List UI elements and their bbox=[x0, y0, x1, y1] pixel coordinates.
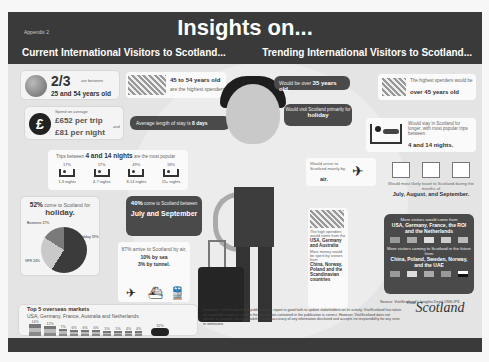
spenders-card: 45 to 54 years old are the highest spend… bbox=[126, 72, 226, 98]
market-bar: 4% bbox=[135, 327, 142, 336]
market-bar: 6% bbox=[92, 326, 100, 336]
flag-icon bbox=[424, 237, 434, 243]
trend-months: Would most likely travel to Scotland dur… bbox=[388, 162, 474, 206]
page-title: Insights on... bbox=[8, 15, 482, 41]
trend-hs-countries: USA, Germany and Australia bbox=[310, 238, 346, 248]
trend-months-highlight: July, August, and September. bbox=[388, 191, 474, 197]
trip-bucket: 49%8-14 nights bbox=[121, 162, 151, 184]
market-bar: 7% bbox=[59, 325, 67, 336]
flag-icon bbox=[103, 331, 111, 336]
trend-age-card: Would be over 35 years old. bbox=[274, 76, 350, 90]
plane-icon: ✈ bbox=[352, 163, 364, 179]
markets-flag-bars: 14% 12% 7% 6% 6% 6% 5% 5% 4% 4% 32% bbox=[29, 320, 169, 336]
pie-label-holiday: Holiday 59% bbox=[79, 235, 99, 239]
flag-icon bbox=[114, 331, 122, 336]
train-icon: 🚆 bbox=[170, 284, 185, 302]
spend-pre: Spend on average bbox=[55, 109, 88, 114]
flag-icon bbox=[92, 330, 100, 336]
flag-icon bbox=[458, 237, 468, 243]
calendar-icon bbox=[452, 162, 470, 178]
flag-icon bbox=[441, 237, 451, 243]
trend-purpose-highlight: holiday bbox=[284, 112, 352, 118]
trip-pct: 17% bbox=[63, 162, 71, 167]
market-bar: 12% bbox=[44, 322, 56, 336]
bed-icon bbox=[370, 124, 402, 144]
origin-flags-row bbox=[387, 237, 471, 243]
bed-icon bbox=[163, 169, 179, 177]
spend-and: and bbox=[113, 124, 120, 129]
age-card: 2/3 are between 25 and 54 years old bbox=[20, 70, 120, 100]
trip-pct: 18% bbox=[167, 162, 175, 167]
trip-bucket: 17%4-7 nights bbox=[87, 162, 117, 184]
trend-hs-text: The high spenders would come from the bbox=[310, 230, 346, 238]
trend-months-text: Would most likely travel to Scotland dur… bbox=[388, 181, 474, 191]
transport-tunnel: 3% by tunnel. bbox=[118, 261, 190, 269]
trip-pct: 49% bbox=[132, 162, 140, 167]
market-bar-world: 32% bbox=[151, 324, 169, 336]
market-bar: 14% bbox=[29, 320, 41, 336]
subtitle-current: Current International Visitors to Scotla… bbox=[22, 47, 226, 58]
world-map-icon bbox=[151, 328, 169, 336]
trips-card: Trips between 4 and 14 nights are the mo… bbox=[48, 150, 188, 190]
spenders-text: are the highest spenders bbox=[170, 86, 225, 92]
bed-icon bbox=[59, 169, 75, 177]
trend-origins-card: More visitors would come from USA, Germa… bbox=[384, 214, 474, 294]
pie-label-business: Business 17% bbox=[27, 221, 49, 225]
trip-bucket: 17%1-3 nights bbox=[52, 162, 82, 184]
market-bar: 6% bbox=[81, 326, 89, 336]
holiday-pct: 52% bbox=[30, 201, 43, 208]
season-line: 40% come to Scotland between bbox=[126, 200, 202, 206]
markets-title: Top 5 overseas markets bbox=[27, 306, 89, 312]
flag-icon bbox=[390, 271, 400, 277]
euro-icon bbox=[128, 75, 166, 95]
logo-scotland: Scotland bbox=[415, 300, 464, 315]
spend-per-night: £81 per night bbox=[55, 128, 105, 137]
season-card: 40% come to Scotland between July and Se… bbox=[126, 196, 202, 236]
trend-spend-countries-card: The high spenders would come from the US… bbox=[308, 208, 348, 308]
flag-icon bbox=[390, 237, 400, 243]
header: Appendix 2 Insights on... Current Intern… bbox=[8, 12, 482, 64]
trip-label: 15+ nights bbox=[162, 179, 181, 184]
trend-stay-highlight: 4 and 14 nights. bbox=[408, 142, 453, 148]
trip-label: 1-3 nights bbox=[58, 179, 76, 184]
globe-icon bbox=[25, 75, 47, 97]
trend-spenders-text: The highest spenders would be bbox=[410, 78, 474, 83]
euro-icon bbox=[310, 210, 344, 228]
flag-icon bbox=[59, 329, 67, 336]
flag-icon bbox=[70, 330, 78, 336]
transport-card: 87% arrive to Scotland by air, 10% by se… bbox=[118, 242, 190, 302]
pie-label-vfr: VFR 24% bbox=[25, 259, 40, 263]
trips-post: are the most popular bbox=[134, 154, 175, 159]
trend-origins-highlight1: USA, Germany, France, the ROI and the Ne… bbox=[387, 222, 471, 234]
trend-origins-text2: More visitors coming to Scotland in the … bbox=[387, 246, 471, 256]
trips-pre: Trips between bbox=[56, 154, 84, 159]
calendar-icon bbox=[392, 162, 410, 178]
flag-icon bbox=[81, 330, 89, 336]
trips-heading: Trips between 4 and 14 nights are the mo… bbox=[56, 152, 175, 159]
money-icon bbox=[382, 78, 406, 96]
market-bar: 5% bbox=[103, 327, 111, 336]
market-bar: 4% bbox=[125, 327, 132, 336]
age-fraction: 2/3 bbox=[51, 73, 70, 89]
infographic-page: Appendix 2 Insights on... Current Intern… bbox=[8, 12, 482, 352]
ship-icon: ⛴ bbox=[148, 284, 163, 302]
flag-icon bbox=[29, 324, 41, 336]
trend-money-text: More money would be spent by visitors fr… bbox=[310, 250, 346, 262]
flag-icon bbox=[44, 326, 56, 336]
bed-icon bbox=[128, 169, 144, 177]
trend-spenders-highlight: over 45 years old bbox=[410, 89, 459, 95]
flag-icon bbox=[424, 271, 434, 277]
trips-highlight: 4 and 14 nights bbox=[85, 152, 132, 159]
trend-money-countries: China, Norway, Poland and the Scandinavi… bbox=[310, 262, 346, 282]
markets-card: Top 5 overseas markets USA, Germany, Fra… bbox=[18, 304, 198, 336]
trend-stay-card: Would stay in Scotland for longer, with … bbox=[366, 118, 476, 152]
age-range: 25 and 54 years old bbox=[51, 90, 111, 97]
trip-label: 8-14 nights bbox=[126, 179, 146, 184]
bed-icon bbox=[94, 169, 110, 177]
trend-stay-text: Would stay in Scotland for longer, with … bbox=[408, 121, 474, 136]
subtitle-trending: Trending International Visitors to Scotl… bbox=[262, 47, 472, 58]
season-text: come to Scotland between bbox=[144, 201, 197, 206]
suitcase-handle bbox=[208, 240, 226, 268]
footer-bar bbox=[8, 338, 482, 352]
holiday-highlight: holiday. bbox=[21, 208, 99, 217]
